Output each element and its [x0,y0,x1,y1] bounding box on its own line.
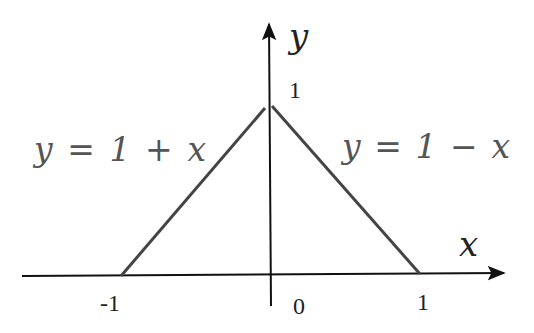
y-axis-label: y [287,16,309,56]
y-axis [269,24,271,306]
x-axis-label: x [459,224,478,264]
x-tick-1: 1 [417,289,429,315]
y-tick-1: 1 [289,77,301,103]
left-line-label: y = 1 + x [32,130,206,169]
x-tick-origin: 0 [293,293,305,319]
x-tick-neg-1: -1 [100,290,120,316]
right-line-label: y = 1 − x [340,127,510,166]
x-axis [22,273,504,276]
triangle-function-diagram: y x 1 -1 0 1 y = 1 + x y = 1 − x [0,0,534,333]
